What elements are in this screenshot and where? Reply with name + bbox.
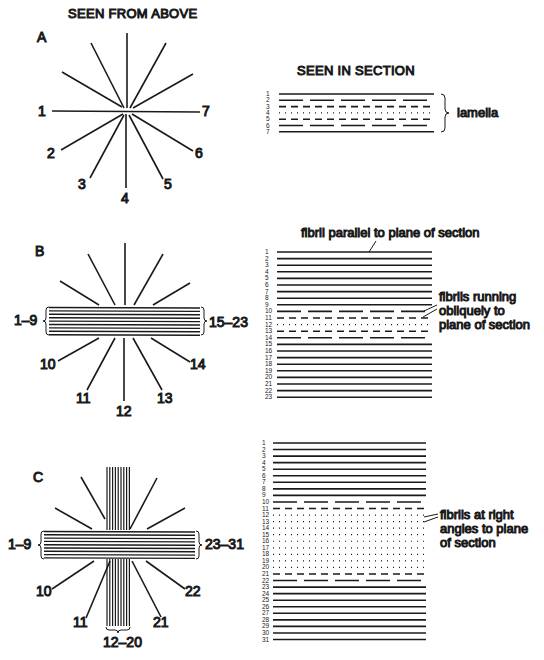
- bundle-fibril: [49, 321, 200, 322]
- bundle-bottom-label-c: 12–20: [103, 634, 142, 650]
- bundle-fibril: [49, 325, 200, 326]
- horizontal-bundle-fibril: [44, 558, 195, 559]
- horizontal-bundle-fibril: [44, 538, 195, 539]
- ray-label-4: 4: [121, 190, 129, 206]
- panel-c-star: C 1–9 23–31 12–20 10 11 21 22: [8, 467, 244, 650]
- bundle-fibril: [49, 335, 200, 336]
- ray-label-14: 14: [190, 356, 206, 372]
- panel-c-section: 1234567891011121314151617181920212223242…: [262, 439, 528, 643]
- ray-label-21-c: 21: [153, 614, 169, 630]
- horizontal-bundle-fibril: [44, 545, 195, 546]
- horizontal-bundle-fibril: [44, 551, 195, 552]
- bundle-fibril: [49, 331, 200, 332]
- ray-label-2: 2: [47, 145, 55, 161]
- panel-c-letter: C: [33, 469, 43, 485]
- annotation-right-angle-1: fibrils at right: [440, 507, 514, 522]
- ray-label-3: 3: [78, 176, 86, 192]
- annotation-oblique-1: fibrils running: [439, 289, 516, 304]
- horizontal-bundle-fibril: [44, 555, 195, 556]
- bundle-right-label: 15–23: [209, 314, 248, 330]
- panel-a-section: 1234567 lamella: [266, 90, 499, 135]
- line-number: 7: [266, 128, 270, 135]
- panel-a-letter: A: [37, 29, 47, 45]
- line-number: 23: [265, 393, 273, 400]
- horizontal-bundle-fibril: [44, 541, 195, 542]
- annotation-right-angle-2: angles to plane: [440, 521, 528, 536]
- header-seen-from-above: SEEN FROM ABOVE: [68, 6, 198, 21]
- bundle-left-label: 1–9: [14, 312, 38, 328]
- lamella-label: lamella: [457, 105, 499, 120]
- annotation-right-angle-3: of section: [440, 535, 496, 550]
- ray-label-5: 5: [164, 176, 172, 192]
- bundle-fibril: [49, 314, 200, 315]
- panel-a-star: A 1 2 3 4 5 6 7: [37, 29, 210, 206]
- ray-label-6: 6: [195, 145, 203, 161]
- bundle-right-label-c: 23–31: [205, 536, 244, 552]
- ray-label-22-c: 22: [185, 583, 201, 599]
- bundle-fibril: [49, 308, 200, 309]
- horizontal-bundle-fibril: [44, 535, 195, 536]
- ray-label-1: 1: [38, 103, 46, 119]
- horizontal-bundle-fibril: [44, 532, 195, 533]
- ray-label-11: 11: [76, 390, 91, 406]
- panel-b-section: 1234567891011121314151617181920212223 fi…: [265, 225, 530, 400]
- horizontal-bundle-fibril: [44, 548, 195, 549]
- collagen-fibril-diagram: SEEN FROM ABOVE SEEN IN SECTION A 1 2 3 …: [0, 0, 544, 660]
- header-seen-in-section: SEEN IN SECTION: [297, 63, 415, 78]
- ray-label-12: 12: [116, 403, 132, 419]
- ray-label-10-c: 10: [36, 583, 52, 599]
- bundle-fibril: [49, 311, 200, 312]
- line-number: 31: [262, 636, 270, 643]
- annotation-parallel: fibril parallel to plane of section: [301, 225, 480, 240]
- panel-b-letter: B: [35, 243, 44, 259]
- ray-label-10: 10: [40, 356, 56, 372]
- annotation-oblique-2: obliquely to: [439, 303, 505, 318]
- annotation-oblique-3: plane of section: [439, 317, 530, 332]
- bundle-left-label-c: 1–9: [8, 536, 32, 552]
- ray-label-7: 7: [202, 103, 210, 119]
- bundle-fibril: [49, 318, 200, 319]
- bundle-fibril: [49, 328, 200, 329]
- panel-b-star: B 1–9 15–23 10 11 12 13 14: [14, 243, 248, 419]
- ray-label-13: 13: [157, 390, 173, 406]
- ray-label-11-c: 11: [73, 614, 88, 630]
